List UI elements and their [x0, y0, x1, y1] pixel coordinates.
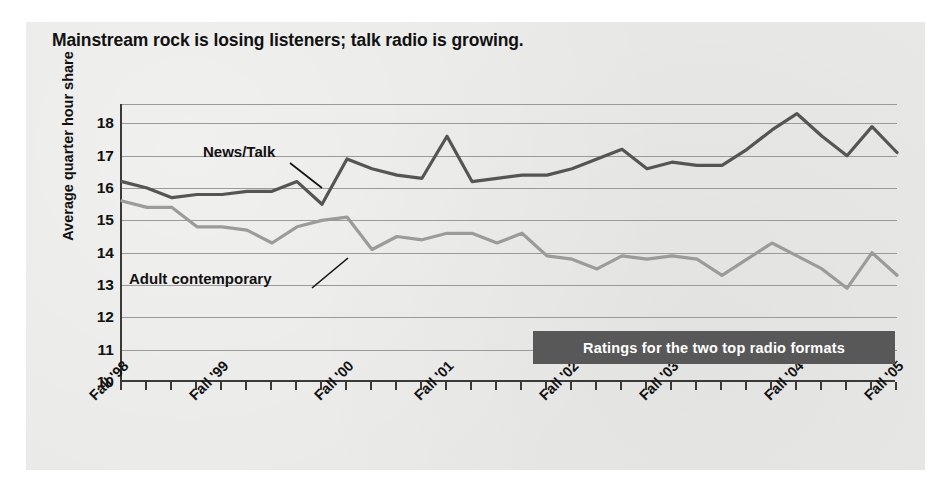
- leader-line-adult-contemporary: [312, 258, 348, 288]
- status-banner-text: Ratings for the two top radio formats: [583, 340, 845, 356]
- chart-figure: Mainstream rock is losing listeners; tal…: [0, 0, 951, 492]
- status-banner: Ratings for the two top radio formats: [533, 331, 895, 364]
- annotation-leader-lines: [0, 0, 951, 492]
- leader-line-news-talk: [290, 163, 322, 188]
